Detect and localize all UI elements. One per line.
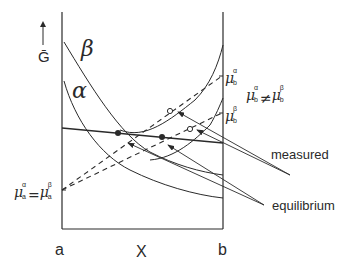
equilibrium-annotation: equilibrium	[272, 198, 335, 213]
equilibrium-point-alpha	[115, 130, 121, 136]
x-axis-label: X	[136, 243, 147, 261]
equilibrium-point-beta	[159, 134, 165, 140]
alpha-phase-label: α	[72, 78, 87, 103]
alpha-rising-curve	[120, 45, 223, 133]
mu-a-equality-label: μαa=μβa	[14, 184, 54, 203]
beta-curve	[64, 42, 223, 175]
measured-point-1	[167, 108, 172, 113]
alpha-curve	[64, 81, 223, 198]
mu-b-beta-label: μβb	[225, 108, 239, 127]
measured-annotation: measured	[271, 147, 329, 162]
mu-b-inequality-label: μαb≠μβb	[246, 87, 286, 106]
y-axis-label: Ḡ	[38, 48, 50, 65]
right-end-label: b	[218, 241, 227, 259]
dashed-line-mu-b-beta	[62, 113, 222, 190]
beta-phase-label: β	[81, 36, 94, 61]
measured-point-2	[187, 126, 192, 131]
mu-b-alpha-label: μαb	[225, 70, 239, 89]
left-end-label: a	[55, 241, 64, 259]
diagram-canvas	[0, 0, 345, 271]
g-axis-arrow-icon	[40, 21, 46, 45]
